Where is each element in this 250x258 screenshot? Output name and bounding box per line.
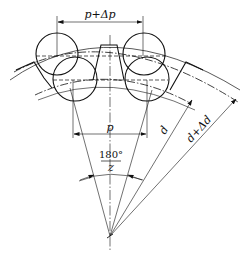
roller-lower-left xyxy=(53,57,97,101)
radial-d xyxy=(110,100,192,236)
angle-arrow-right xyxy=(128,175,142,180)
radial-right xyxy=(110,90,152,236)
radial-left xyxy=(70,88,110,236)
tooth-center xyxy=(93,45,124,80)
tooth-right xyxy=(170,62,203,90)
label-d-plus-delta-d: d+Δd xyxy=(184,113,215,145)
diagram-canvas: p+Δp p 180° z d d+Δd xyxy=(0,0,250,258)
radial-d-plus-delta xyxy=(110,99,236,236)
angle-arc xyxy=(79,174,143,181)
gear-measurement-diagram: p+Δp p 180° z d d+Δd xyxy=(0,0,250,258)
label-angle-numerator: 180° xyxy=(99,149,123,160)
label-p-plus-delta-p: p+Δp xyxy=(84,8,115,21)
inner-arc xyxy=(38,87,195,110)
angle-arrow-left xyxy=(80,175,94,180)
label-p: p xyxy=(106,121,113,134)
label-d: d xyxy=(157,124,172,137)
label-angle-denominator: z xyxy=(107,161,114,174)
lower-pitch-arc xyxy=(35,79,190,103)
